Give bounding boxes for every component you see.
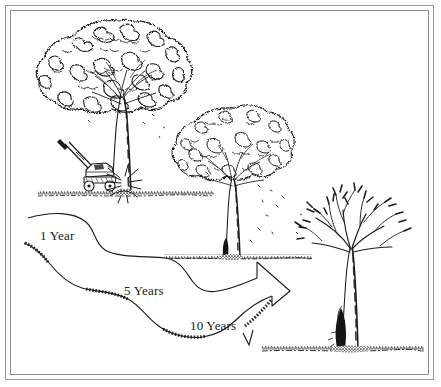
tree-declining [172, 105, 294, 260]
tree-declining-falling-leaves [206, 172, 284, 242]
tree-healthy-canopy [36, 19, 192, 112]
tree-healthy-base-wound [115, 189, 133, 195]
tree-declining-trunk [200, 144, 271, 257]
tree-healthy [36, 19, 192, 193]
timeline-label-1-year: 1 Year [40, 228, 74, 244]
timeline-label-5-years: 5 Years [124, 283, 164, 299]
tree-dead-bare-branches [295, 183, 411, 252]
timeline-label-10-years: 10 Years [190, 318, 236, 334]
tree-declining-foliage-clusters [178, 110, 290, 177]
illustration-page: 1 Year 5 Years 10 Years [0, 0, 441, 387]
lawn-mower [57, 139, 116, 191]
tree-declining-crown-shading [190, 118, 279, 170]
tree-dead [295, 183, 411, 353]
tree-healthy-foliage-clusters [39, 24, 184, 112]
